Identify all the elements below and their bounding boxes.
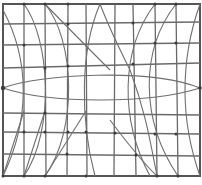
node bbox=[67, 23, 70, 26]
node bbox=[23, 175, 26, 178]
node bbox=[23, 44, 26, 47]
node bbox=[66, 153, 69, 156]
node bbox=[44, 67, 47, 70]
node bbox=[1, 86, 5, 90]
node bbox=[67, 65, 70, 68]
node bbox=[44, 3, 47, 6]
node bbox=[132, 22, 135, 25]
node bbox=[156, 175, 159, 178]
horizontal-line bbox=[3, 22, 200, 24]
node bbox=[135, 154, 138, 157]
node bbox=[44, 131, 47, 134]
node bbox=[67, 3, 70, 6]
diagonal-line bbox=[24, 111, 45, 176]
node bbox=[23, 3, 26, 6]
node bbox=[177, 175, 180, 178]
horizontal-line bbox=[3, 113, 200, 115]
horizontal-line bbox=[3, 43, 200, 45]
arc-right-outer bbox=[128, 4, 155, 176]
vertical-line bbox=[114, 4, 115, 176]
node bbox=[44, 112, 47, 115]
grid-nodes bbox=[1, 3, 202, 178]
node bbox=[154, 42, 157, 45]
node bbox=[2, 175, 5, 178]
vertical-line bbox=[86, 4, 87, 176]
arc-left-inner bbox=[24, 4, 45, 176]
diagonal-line bbox=[45, 111, 86, 176]
node bbox=[175, 133, 178, 136]
arc-right-inner bbox=[149, 4, 178, 176]
node bbox=[44, 175, 47, 178]
node bbox=[154, 3, 157, 6]
node bbox=[85, 131, 88, 134]
node bbox=[175, 3, 178, 6]
node bbox=[154, 133, 157, 136]
node bbox=[23, 131, 26, 134]
lens-bottom-arc bbox=[3, 88, 200, 100]
vertical-line bbox=[67, 4, 68, 176]
lens-top-arc bbox=[3, 75, 200, 88]
lattice-diagram bbox=[0, 0, 202, 185]
node bbox=[132, 63, 135, 66]
vertical-line bbox=[155, 4, 157, 176]
node bbox=[175, 42, 178, 45]
node bbox=[114, 132, 117, 135]
vertical-line bbox=[176, 4, 178, 176]
node bbox=[85, 175, 88, 178]
arc-left-mid bbox=[45, 4, 69, 176]
diagonal-line bbox=[3, 111, 24, 176]
arc-center-diag bbox=[45, 4, 110, 70]
node bbox=[198, 86, 202, 90]
node bbox=[67, 131, 70, 134]
horizontal-line bbox=[3, 154, 200, 156]
horizontal-line bbox=[3, 63, 200, 68]
horizontal-line bbox=[3, 132, 200, 134]
arc-bottom-diag bbox=[110, 120, 157, 176]
